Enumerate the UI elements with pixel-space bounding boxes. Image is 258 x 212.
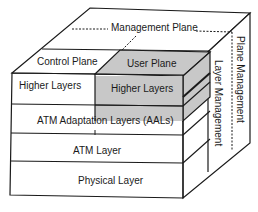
plane-management-label: Plane Management bbox=[235, 36, 246, 123]
physical-layer-label: Physical Layer bbox=[78, 175, 144, 186]
row-line-3 bbox=[11, 161, 183, 163]
higher-layers-control-label: Higher Layers bbox=[19, 80, 81, 91]
user-plane-label: User Plane bbox=[127, 58, 177, 69]
atm-reference-model-diagram: Management Plane Control Plane User Plan… bbox=[0, 0, 258, 212]
atm-layer-label: ATM Layer bbox=[73, 145, 122, 156]
higher-layers-user-label: Higher Layers bbox=[111, 83, 173, 94]
layer-management-label: Layer Management bbox=[213, 60, 224, 146]
aal-label: ATM Adaptation Layers (AALs) bbox=[37, 115, 174, 126]
control-plane-label: Control Plane bbox=[37, 56, 98, 67]
row-line-2 bbox=[11, 133, 183, 135]
management-plane-label: Management Plane bbox=[111, 22, 198, 33]
